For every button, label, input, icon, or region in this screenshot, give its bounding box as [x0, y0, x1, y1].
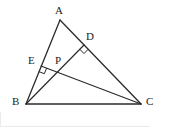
segment-ac	[60, 20, 141, 104]
geometry-figure: A B C D E P	[0, 0, 181, 127]
right-angle-mark-d	[80, 49, 88, 53]
point-label-e: E	[28, 55, 35, 66]
point-label-a: A	[55, 5, 63, 16]
point-label-b: B	[12, 96, 19, 107]
point-label-c: C	[146, 96, 153, 107]
point-label-p: P	[55, 55, 61, 66]
segment-ce-altitude	[41, 66, 141, 104]
point-label-d: D	[86, 31, 94, 42]
